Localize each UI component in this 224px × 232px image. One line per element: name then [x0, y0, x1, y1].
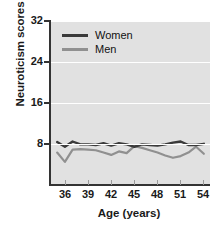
y-tick-label-32: 32 — [31, 14, 43, 26]
legend: Women Men — [62, 28, 133, 56]
legend-item-women: Women — [62, 28, 133, 42]
x-tick-label-51: 51 — [169, 188, 191, 200]
y-tick-label-24: 24 — [31, 55, 43, 67]
x-tick-36 — [65, 180, 66, 185]
x-tick-label-54: 54 — [192, 188, 214, 200]
x-tick-51 — [180, 180, 181, 185]
x-tick-label-45: 45 — [123, 188, 145, 200]
x-axis-label: Age (years) — [48, 207, 210, 219]
legend-swatch-men-icon — [62, 48, 88, 51]
x-tick-54 — [203, 180, 204, 185]
x-axis-spine — [49, 184, 210, 186]
legend-item-men: Men — [62, 42, 133, 56]
y-tick-24 — [44, 61, 50, 63]
x-tick-label-36: 36 — [54, 188, 76, 200]
y-tick-8 — [44, 143, 50, 145]
gridline-8 — [51, 144, 210, 145]
x-tick-label-42: 42 — [100, 188, 122, 200]
y-axis-label: Neuroticism scores — [14, 0, 26, 134]
gridline-16 — [51, 103, 210, 104]
x-tick-42 — [111, 180, 112, 185]
legend-swatch-women-icon — [62, 34, 88, 37]
y-tick-label-16: 16 — [31, 96, 43, 108]
line-series-men — [57, 146, 204, 162]
gridline-32 — [51, 21, 210, 22]
legend-label-women: Women — [95, 29, 133, 41]
x-tick-label-48: 48 — [146, 188, 168, 200]
gridline-24 — [51, 62, 210, 63]
y-tick-32 — [44, 20, 50, 22]
y-tick-label-8: 8 — [37, 137, 43, 149]
x-tick-45 — [134, 180, 135, 185]
x-tick-48 — [157, 180, 158, 185]
x-tick-label-39: 39 — [77, 188, 99, 200]
x-tick-39 — [88, 180, 89, 185]
y-tick-16 — [44, 102, 50, 104]
legend-label-men: Men — [95, 43, 116, 55]
chart-figure: 32 24 16 8 36 39 42 45 48 51 54 Neurotic… — [0, 0, 224, 232]
